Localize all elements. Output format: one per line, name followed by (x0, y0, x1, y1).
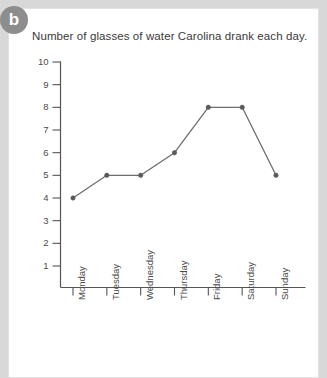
data-point-marker (172, 151, 176, 155)
x-axis-tick-label: Sunday (280, 267, 290, 299)
y-axis-tick-label: 1 (27, 261, 49, 271)
y-axis-tick-label: 8 (27, 102, 49, 112)
data-point-marker (206, 105, 210, 109)
y-axis-tick-label: 9 (27, 80, 49, 90)
x-axis-tick-label: Monday (77, 266, 87, 300)
x-axis-tick-label: Friday (212, 273, 222, 299)
data-point-marker (105, 173, 109, 177)
y-axis-tick-label: 10 (27, 57, 49, 67)
question-part-badge: b (0, 6, 28, 34)
data-point-marker (71, 196, 75, 200)
y-axis-tick-label: 7 (27, 125, 49, 135)
data-point-marker (139, 173, 143, 177)
x-axis-tick-label: Wednesday (145, 250, 155, 300)
y-axis-tick-label: 4 (27, 193, 49, 203)
y-axis-tick-label: 2 (27, 238, 49, 248)
data-point-marker (274, 173, 278, 177)
y-axis-tick-label: 5 (27, 170, 49, 180)
x-axis-tick-label: Thursday (179, 260, 189, 300)
x-axis-tick-label: Tuesday (111, 263, 121, 299)
x-axis-tick-label: Saturday (246, 261, 256, 299)
y-axis-tick-label: 6 (27, 148, 49, 158)
y-axis-tick-label: 3 (27, 216, 49, 226)
data-point-marker (240, 105, 244, 109)
